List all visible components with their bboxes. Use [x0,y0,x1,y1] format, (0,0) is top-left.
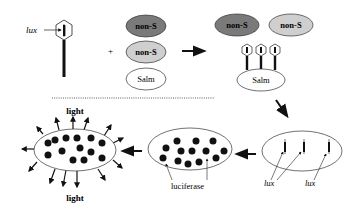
light-label-bottom: light [66,193,84,203]
cell-non-s-dark: non-S [126,15,166,37]
glowing-cell: light light [22,106,123,203]
svg-text:non-S: non-S [226,20,248,30]
lux-label-2: lux [305,178,316,188]
light-label-top: light [66,106,84,116]
svg-text:non-S: non-S [280,20,302,30]
lux-label-1: lux [264,178,275,188]
diagram-canvas: lux + non-S non-S Salm non-S non-S [0,0,360,213]
plus-sign: + [108,46,113,56]
svg-text:Salm: Salm [252,75,270,85]
phage-lux: lux [26,20,72,77]
svg-text:non-S: non-S [135,47,157,57]
svg-text:non-S: non-S [135,21,157,31]
expressing-cell: luciferase [148,128,232,191]
luciferase-label: luciferase [171,181,204,191]
result-non-s-light: non-S [269,14,313,36]
bound-phages [242,44,280,70]
result-non-s-dark: non-S [215,14,259,36]
svg-text:Salm: Salm [137,74,155,84]
arrow-binding-to-infection [276,100,287,116]
infected-cell: lux lux [262,131,342,188]
lux-label: lux [26,25,37,35]
cell-salm: Salm [126,68,166,90]
cell-non-s-light: non-S [126,41,166,63]
result-salm: Salm [237,69,285,91]
